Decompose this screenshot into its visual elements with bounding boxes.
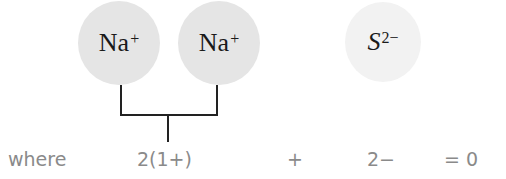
ionic-charge-diagram: Na+ Na+ S2− where 2(1+) + 2− = 0 xyxy=(0,0,506,179)
bracket-stem xyxy=(167,114,169,142)
sodium-ion-1: Na+ xyxy=(78,1,160,85)
equation-term-cations: 2(1+) xyxy=(137,147,192,171)
sodium-ion-2: Na+ xyxy=(178,1,260,85)
sulfide-ion: S2− xyxy=(345,2,421,82)
ion-symbol: Na xyxy=(199,28,229,58)
equation-result: = 0 xyxy=(444,147,478,171)
equation-label: where xyxy=(8,147,66,171)
ion-charge: + xyxy=(230,30,239,48)
bracket-left-leg xyxy=(120,85,122,116)
bracket-crossbar xyxy=(120,114,218,116)
ion-charge: 2− xyxy=(381,29,398,47)
equation-plus-operator: + xyxy=(287,147,303,171)
ion-charge: + xyxy=(130,30,139,48)
bracket-right-leg xyxy=(216,85,218,116)
equation-term-anion: 2− xyxy=(367,147,395,171)
ion-symbol: Na xyxy=(99,28,129,58)
ion-symbol: S xyxy=(367,27,380,57)
